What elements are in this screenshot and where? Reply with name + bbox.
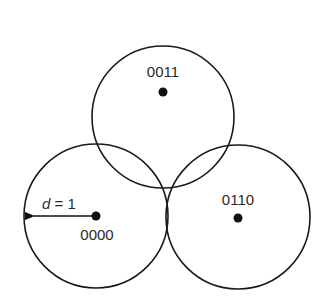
center-dot: [92, 212, 101, 221]
sphere-0011: 0011: [92, 46, 234, 188]
sphere-0000: d = 1 0000: [24, 144, 168, 288]
radius-value: = 1: [50, 195, 75, 212]
center-dot: [234, 214, 243, 223]
hamming-sphere-diagram: 0011 d = 1 0000 0110: [0, 0, 328, 307]
center-dot: [159, 88, 168, 97]
codeword-label: 0000: [80, 226, 113, 243]
radius-label: d = 1: [42, 195, 76, 212]
sphere-0110: 0110: [166, 145, 310, 289]
codeword-label: 0011: [147, 63, 179, 80]
codeword-label: 0110: [222, 191, 254, 208]
